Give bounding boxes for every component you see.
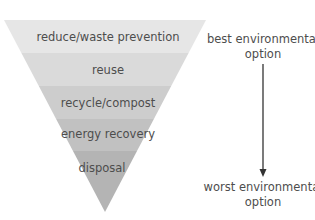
- worst-option-line1: worst environmental: [203, 180, 315, 195]
- worst-option-label: worst environmental option: [203, 180, 315, 210]
- worst-option-line2: option: [203, 195, 315, 210]
